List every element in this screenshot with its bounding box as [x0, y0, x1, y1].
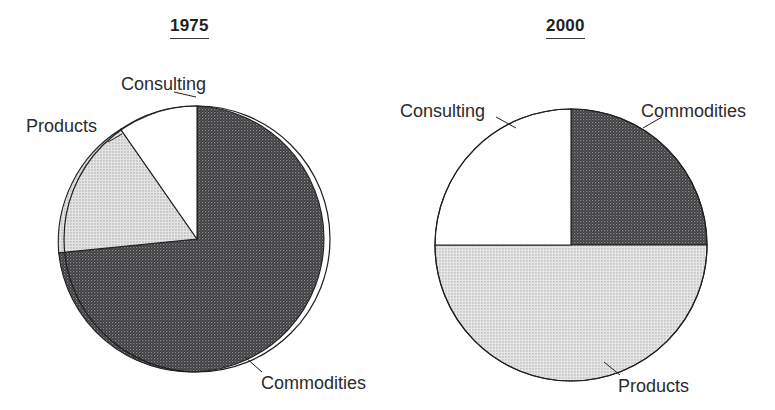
- pie-label-commodities-2000: Commodities: [641, 101, 746, 121]
- chart-title-2000-text: 2000: [546, 16, 585, 39]
- pie-chart-2000: [430, 104, 714, 388]
- pie-slice-products-2000: [435, 245, 707, 381]
- pie-label-consulting-2000: Consulting: [400, 101, 485, 121]
- pie-slice-commodities-2000: [571, 109, 707, 245]
- chart-title-1975-text: 1975: [170, 16, 209, 39]
- pie-label-products-2000: Products: [618, 376, 689, 396]
- pie-label-commodities-1975: Commodities: [261, 373, 366, 393]
- pie-svg-2000: [430, 104, 714, 388]
- pie-label-consulting-1975: Consulting: [121, 74, 206, 94]
- chart-panel-2000: 2000: [388, 0, 775, 410]
- pie-svg-1975: [58, 100, 338, 380]
- chart-title-1975: 1975: [170, 16, 209, 39]
- pie-chart-figure: 1975: [0, 0, 775, 410]
- pie-chart-1975: [58, 100, 338, 380]
- pie-slice-consulting-2000: [435, 109, 571, 245]
- pie-label-products-1975: Products: [26, 116, 97, 136]
- chart-title-2000: 2000: [546, 16, 585, 39]
- chart-panel-1975: 1975: [0, 0, 388, 410]
